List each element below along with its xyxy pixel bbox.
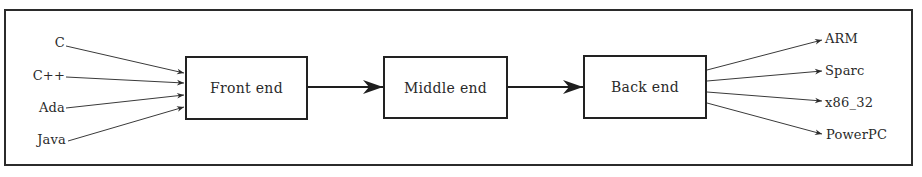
input-label-c: C <box>5 35 65 50</box>
middle-end-label: Middle end <box>404 80 487 96</box>
output-label-arm: ARM <box>825 31 858 46</box>
edge-java-to-front <box>68 107 184 141</box>
input-label-java: Java <box>6 132 66 147</box>
edge-back-to-sparc <box>707 71 822 81</box>
front-end-box: Front end <box>185 56 308 120</box>
edge-back-to-x86 <box>707 92 822 101</box>
edge-c-to-front <box>66 46 184 73</box>
input-label-ada: Ada <box>5 100 65 115</box>
edge-back-to-arm <box>707 40 822 70</box>
edge-cpp-to-front <box>66 77 184 83</box>
front-end-label: Front end <box>210 80 283 96</box>
output-label-powerpc: PowerPC <box>826 127 887 142</box>
back-end-box: Back end <box>583 55 707 119</box>
back-end-label: Back end <box>611 79 679 95</box>
edge-ada-to-front <box>66 95 184 108</box>
edge-back-to-powerpc <box>707 103 822 134</box>
output-label-sparc: Sparc <box>825 63 864 78</box>
middle-end-box: Middle end <box>383 56 508 119</box>
output-label-x86-32: x86_32 <box>825 95 873 110</box>
input-label-cpp: C++ <box>5 68 65 83</box>
diagram-canvas: Front end Middle end Back end C C++ Ada … <box>0 0 922 177</box>
